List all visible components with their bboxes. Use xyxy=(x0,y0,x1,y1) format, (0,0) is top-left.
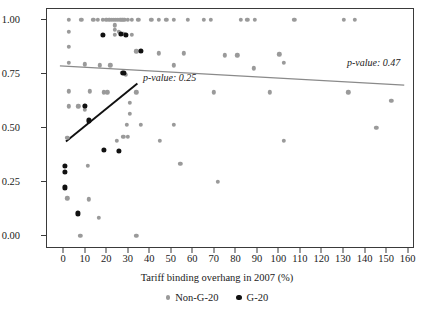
y-tick-mark xyxy=(41,127,46,128)
y-tick-label: 0.00 xyxy=(0,230,20,241)
y-tick-label: 0.50 xyxy=(0,121,20,132)
y-tick-mark xyxy=(41,235,46,236)
chart-legend: Non-G-20 G-20 xyxy=(0,292,434,303)
legend-marker-g20-icon xyxy=(236,295,241,300)
x-axis-label: Tariff binding overhang in 2007 (%) xyxy=(0,272,434,283)
data-layer xyxy=(47,9,413,247)
y-tick-mark xyxy=(41,181,46,182)
legend-item-non-g20: Non-G-20 xyxy=(166,292,219,303)
plot-area xyxy=(46,8,414,248)
legend-item-g20: G-20 xyxy=(236,292,268,303)
legend-label-g20: G-20 xyxy=(247,292,269,303)
y-tick-mark xyxy=(41,73,46,74)
trendline xyxy=(60,66,404,85)
x-tick-label: 160 xyxy=(388,253,428,264)
y-tick-mark xyxy=(41,19,46,20)
scatter-plot-figure: 0.000.250.500.751.0001020304050607080901… xyxy=(0,0,434,318)
legend-label-non-g20: Non-G-20 xyxy=(175,292,218,303)
y-tick-label: 0.75 xyxy=(0,67,20,78)
legend-marker-non-g20-icon xyxy=(166,295,170,299)
y-tick-label: 0.25 xyxy=(0,175,20,186)
p-value-annotation: p-value: 0.47 xyxy=(347,57,400,68)
y-tick-label: 1.00 xyxy=(0,13,20,24)
p-value-annotation: p-value: 0.25 xyxy=(143,72,196,83)
